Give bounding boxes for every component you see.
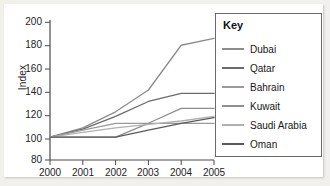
x-tick-label-2002: 2002 <box>99 167 133 178</box>
legend-label-oman: Oman <box>250 139 277 150</box>
legend-swatch-kuwait <box>222 105 244 107</box>
legend-item-bahrain[interactable]: Bahrain <box>222 78 284 96</box>
y-tick-label-80: 80 <box>16 154 42 165</box>
y-tick-label-120: 120 <box>16 109 42 120</box>
chart-legend: Key Dubai Qatar Bahrain Kuwait Saudi Ara… <box>215 13 322 157</box>
legend-label-qatar: Qatar <box>250 63 275 74</box>
x-axis-ticks <box>50 160 214 165</box>
y-axis-title: Index <box>17 48 28 108</box>
legend-item-qatar[interactable]: Qatar <box>222 59 275 77</box>
legend-item-dubai[interactable]: Dubai <box>222 40 276 58</box>
legend-title: Key <box>223 19 243 31</box>
y-tick-label-200: 200 <box>16 16 42 27</box>
y-tick-label-140: 140 <box>16 86 42 97</box>
legend-item-kuwait[interactable]: Kuwait <box>222 97 280 115</box>
legend-swatch-dubai <box>222 48 244 50</box>
legend-swatch-bahrain <box>222 86 244 88</box>
legend-item-oman[interactable]: Oman <box>222 135 277 153</box>
legend-swatch-saudi-arabia <box>222 124 244 126</box>
legend-label-dubai: Dubai <box>250 44 276 55</box>
x-tick-label-2005: 2005 <box>197 167 231 178</box>
chart-axes <box>45 20 214 165</box>
legend-label-kuwait: Kuwait <box>250 101 280 112</box>
x-tick-label-2003: 2003 <box>131 167 165 178</box>
y-tick-label-160: 160 <box>16 63 42 74</box>
x-tick-label-2000: 2000 <box>33 167 67 178</box>
legend-item-saudi-arabia[interactable]: Saudi Arabia <box>222 116 307 134</box>
x-tick-label-2004: 2004 <box>164 167 198 178</box>
y-tick-label-100: 100 <box>16 133 42 144</box>
y-axis-ticks <box>45 22 50 160</box>
legend-swatch-oman <box>222 143 244 145</box>
x-tick-label-2001: 2001 <box>66 167 100 178</box>
legend-label-saudi-arabia: Saudi Arabia <box>250 120 307 131</box>
legend-label-bahrain: Bahrain <box>250 82 284 93</box>
legend-swatch-qatar <box>222 67 244 69</box>
chart-series-group <box>50 38 214 137</box>
y-tick-label-180: 180 <box>16 39 42 50</box>
chart-figure: Index 200 180 160 140 120 100 80 2000 20… <box>0 0 330 186</box>
